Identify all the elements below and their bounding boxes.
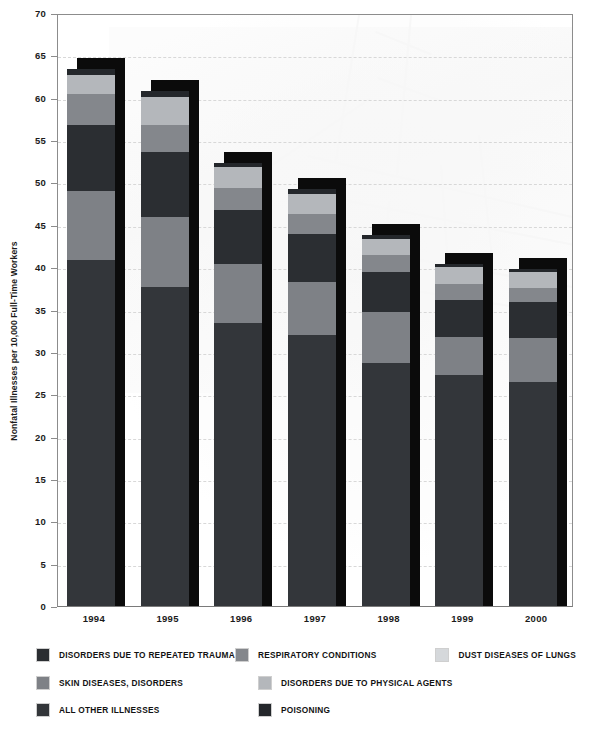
stacked-bar[interactable] (141, 91, 189, 606)
bar-group-1994 (67, 14, 125, 606)
legend-row: DISORDERS DUE TO REPEATED TRAUMARESPIRAT… (36, 648, 576, 662)
x-axis-tick-label: 1999 (422, 613, 502, 624)
legend-row: SKIN DISEASES, DISORDERSDISORDERS DUE TO… (36, 676, 576, 690)
y-axis-tick-label: 40 (12, 262, 46, 273)
y-axis-tick-label: 35 (12, 305, 46, 316)
y-axis-tick-label: 65 (12, 50, 46, 61)
legend-label: DISORDERS DUE TO PHYSICAL AGENTS (281, 678, 453, 688)
legend-item[interactable]: ALL OTHER ILLNESSES (36, 703, 258, 717)
y-axis-tick-label: 25 (12, 389, 46, 400)
x-axis-tick-label: 1995 (128, 613, 208, 624)
bar-segment[interactable] (67, 94, 115, 124)
legend-swatch-icon (435, 648, 449, 662)
legend-label: DUST DISEASES OF LUNGS (458, 650, 576, 660)
y-axis-tick-label: 30 (12, 347, 46, 358)
bar-segment[interactable] (141, 152, 189, 217)
legend-swatch-icon (235, 648, 249, 662)
bar-segment[interactable] (67, 125, 115, 191)
bar-segment[interactable] (141, 125, 189, 152)
legend-item[interactable]: DISORDERS DUE TO REPEATED TRAUMA (36, 648, 235, 662)
bar-group-1999 (435, 14, 493, 606)
stacked-bar[interactable] (435, 264, 483, 606)
y-axis-tick-label: 50 (12, 177, 46, 188)
chart-legend: DISORDERS DUE TO REPEATED TRAUMARESPIRAT… (36, 648, 576, 731)
bar-segment[interactable] (214, 167, 262, 187)
legend-swatch-icon (36, 648, 50, 662)
bar-segment[interactable] (362, 255, 410, 272)
plot-area (57, 14, 573, 607)
bar-segment[interactable] (435, 284, 483, 300)
x-axis-tick-label: 1997 (275, 613, 355, 624)
legend-swatch-icon (36, 676, 50, 690)
y-axis-tick-label: 5 (12, 559, 46, 570)
chart-page: 0510152025303540455055606570 19941995199… (0, 0, 601, 731)
bar-segment[interactable] (141, 287, 189, 606)
y-axis-tick-label: 60 (12, 93, 46, 104)
stacked-bar[interactable] (67, 69, 115, 606)
legend-item[interactable]: DISORDERS DUE TO PHYSICAL AGENTS (258, 676, 506, 690)
legend-swatch-icon (258, 676, 272, 690)
bar-segment[interactable] (509, 272, 557, 287)
bar-segment[interactable] (141, 97, 189, 125)
y-axis-tick-label: 45 (12, 220, 46, 231)
x-axis-tick-label: 2000 (496, 613, 576, 624)
bar-segment[interactable] (509, 288, 557, 302)
bar-segment[interactable] (509, 302, 557, 338)
bar-segment[interactable] (362, 312, 410, 363)
legend-label: ALL OTHER ILLNESSES (59, 705, 159, 715)
y-axis-tick-mark (51, 607, 57, 608)
bar-group-2000 (509, 14, 567, 606)
bar-group-1995 (141, 14, 199, 606)
bar-segment[interactable] (214, 323, 262, 606)
bar-segment[interactable] (362, 272, 410, 312)
y-axis-tick-label: 70 (12, 8, 46, 19)
x-axis-tick-label: 1994 (54, 613, 134, 624)
y-axis-tick-label: 10 (12, 516, 46, 527)
x-axis-tick-label: 1996 (201, 613, 281, 624)
legend-label: POISONING (281, 705, 330, 715)
legend-row: ALL OTHER ILLNESSESPOISONING (36, 703, 576, 717)
bar-segment[interactable] (435, 267, 483, 284)
bar-segment[interactable] (214, 210, 262, 263)
legend-label: DISORDERS DUE TO REPEATED TRAUMA (59, 650, 235, 660)
legend-item[interactable]: RESPIRATORY CONDITIONS (235, 648, 436, 662)
bar-segment[interactable] (288, 234, 336, 282)
legend-label: RESPIRATORY CONDITIONS (258, 650, 377, 660)
legend-swatch-icon (36, 703, 50, 717)
y-axis-tick-label: 0 (12, 601, 46, 612)
bar-segment[interactable] (288, 194, 336, 213)
bar-segment[interactable] (509, 338, 557, 382)
stacked-bar[interactable] (509, 269, 557, 606)
y-axis-tick-label: 55 (12, 135, 46, 146)
bar-group-1997 (288, 14, 346, 606)
bar-segment[interactable] (435, 300, 483, 336)
bar-segment[interactable] (362, 363, 410, 606)
y-axis-title: Nonfatal Illnesses per 10,000 Full-Time … (9, 241, 19, 441)
stacked-bar[interactable] (214, 163, 262, 606)
bar-segment[interactable] (67, 191, 115, 260)
bar-segment[interactable] (435, 337, 483, 375)
x-axis-tick-label: 1998 (349, 613, 429, 624)
y-axis-tick-label: 15 (12, 474, 46, 485)
legend-item[interactable]: DUST DISEASES OF LUNGS (435, 648, 576, 662)
bar-group-1998 (362, 14, 420, 606)
bar-segment[interactable] (67, 75, 115, 94)
stacked-bar[interactable] (362, 235, 410, 606)
legend-item[interactable]: SKIN DISEASES, DISORDERS (36, 676, 258, 690)
y-axis-tick-label: 20 (12, 432, 46, 443)
bar-segment[interactable] (214, 188, 262, 211)
bar-segment[interactable] (141, 217, 189, 287)
legend-swatch-icon (258, 703, 272, 717)
bar-segment[interactable] (288, 282, 336, 335)
bar-segment[interactable] (435, 375, 483, 606)
legend-item[interactable]: POISONING (258, 703, 506, 717)
stacked-bar[interactable] (288, 189, 336, 606)
legend-label: SKIN DISEASES, DISORDERS (59, 678, 183, 688)
bar-segment[interactable] (509, 382, 557, 606)
bar-segment[interactable] (288, 214, 336, 234)
bar-segment[interactable] (214, 264, 262, 323)
bar-group-1996 (214, 14, 272, 606)
bar-segment[interactable] (362, 239, 410, 255)
bar-segment[interactable] (288, 335, 336, 606)
bar-segment[interactable] (67, 260, 115, 606)
